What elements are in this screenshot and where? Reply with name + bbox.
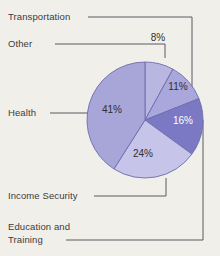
callout-label-education-training-line1: Education and (8, 221, 70, 232)
pie-chart-svg: 8% 11% 16% 24% 41% Transportation Other … (0, 0, 220, 256)
pct-label-other: 8% (151, 32, 166, 43)
pct-label-health: 41% (102, 104, 122, 115)
pct-label-education-training: 16% (173, 115, 193, 126)
callout-label-education-training-line2: Training (8, 234, 43, 245)
pct-label-income-security: 24% (133, 148, 153, 159)
callout-label-health: Health (8, 107, 36, 118)
callout-label-other: Other (8, 38, 32, 49)
callout-label-income-security: Income Security (8, 190, 78, 201)
pct-label-transportation: 11% (168, 81, 187, 92)
pie-chart-figure: 8% 11% 16% 24% 41% Transportation Other … (0, 0, 220, 256)
callout-label-transportation: Transportation (8, 11, 70, 22)
